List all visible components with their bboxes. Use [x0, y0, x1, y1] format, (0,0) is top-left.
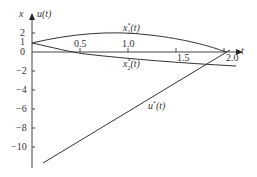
y-tick-label: −2 [16, 66, 27, 76]
y-tick-label: −6 [16, 104, 27, 114]
x-tick-label: 1.5 [177, 53, 190, 63]
y-tick-label: −10 [11, 142, 27, 152]
y-axis-label: x [19, 9, 23, 19]
y-tick-label: 0 [20, 47, 25, 57]
series-label-x1: x*1(t) [123, 22, 140, 35]
x-ticks [80, 48, 224, 52]
t-axis-label: t [241, 46, 244, 56]
x-tick-label: 2.0 [226, 53, 239, 63]
x-tick-label: 0.5 [74, 39, 87, 49]
x-tick-label: 1.0 [122, 39, 135, 49]
u-axis-label: u(t) [37, 9, 51, 19]
y-tick-label: −8 [16, 123, 27, 133]
series-label-x2: x*2(t) [123, 58, 140, 71]
y-tick-label: −4 [16, 85, 27, 95]
series-label-u: u*(t) [148, 100, 165, 111]
y-axis-arrow-icon [29, 13, 35, 20]
